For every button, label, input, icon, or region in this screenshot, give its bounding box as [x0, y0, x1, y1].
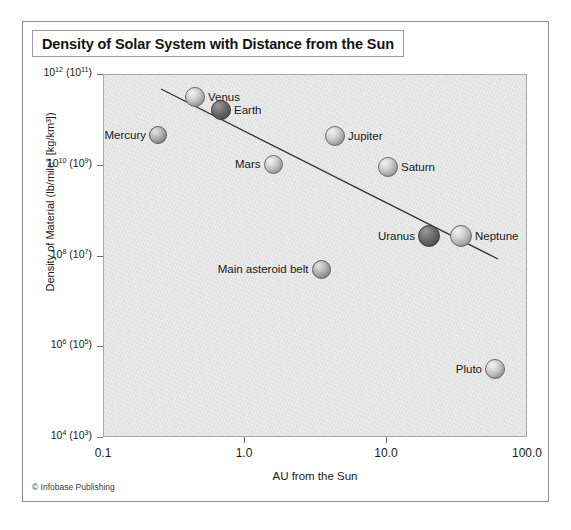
data-point-label-neptune: Neptune	[475, 231, 518, 243]
trend-line	[104, 75, 526, 436]
x-axis-tick-label: 100.0	[482, 446, 571, 460]
x-axis-tick	[386, 437, 387, 443]
data-point-label-uranus: Uranus	[378, 231, 415, 243]
data-point-main-asteroid-belt[interactable]	[312, 260, 331, 279]
data-point-label-saturn: Saturn	[401, 162, 435, 174]
credit-text: © Infobase Publishing	[32, 482, 115, 492]
data-point-earth[interactable]	[211, 100, 231, 120]
data-point-mercury[interactable]	[149, 126, 167, 144]
data-point-uranus[interactable]	[418, 225, 440, 247]
figure-root: Density of Solar System with Distance fr…	[0, 0, 571, 530]
x-axis-tick-label: 10.0	[341, 446, 431, 460]
data-point-neptune[interactable]	[450, 225, 472, 247]
data-point-label-mars: Mars	[235, 159, 261, 171]
y-axis-title: Density of Material (lb/mile³ [kg/km³])	[44, 92, 56, 312]
data-point-mars[interactable]	[264, 155, 283, 174]
x-axis-title: AU from the Sun	[103, 470, 527, 482]
y-axis-tick	[97, 437, 103, 438]
data-point-label-mercury: Mercury	[104, 130, 146, 142]
page-title: Density of Solar System with Distance fr…	[42, 36, 394, 52]
data-point-venus[interactable]	[185, 87, 205, 107]
plot-area: MercuryVenusEarthMarsMain asteroid beltJ…	[103, 74, 527, 437]
data-point-label-main-asteroid-belt: Main asteroid belt	[218, 264, 309, 276]
data-point-label-jupiter: Jupiter	[348, 131, 383, 143]
x-axis-tick-label: 1.0	[199, 446, 289, 460]
chart-title-box: Density of Solar System with Distance fr…	[32, 30, 404, 57]
data-point-label-pluto: Pluto	[456, 364, 482, 376]
x-axis-tick-label: 0.1	[58, 446, 148, 460]
data-point-saturn[interactable]	[378, 157, 398, 177]
data-point-label-earth: Earth	[234, 105, 262, 117]
plot-inner: MercuryVenusEarthMarsMain asteroid beltJ…	[104, 75, 526, 436]
x-axis-tick	[244, 437, 245, 443]
data-point-jupiter[interactable]	[325, 126, 345, 146]
data-point-pluto[interactable]	[485, 359, 505, 379]
